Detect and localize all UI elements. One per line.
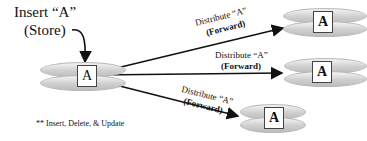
target-database-2: A (284, 58, 367, 88)
source-label-line1: Insert “A” (14, 4, 76, 21)
replication-diagram: Insert “A” (Store) A A Distribute “A” (F… (0, 0, 367, 141)
edge-2-label-line2: (Forward) (221, 61, 261, 71)
target-database-1: A (283, 8, 367, 38)
target-2-record-box: A (312, 61, 332, 83)
source-record-box: A (77, 65, 97, 87)
footnote: ** Insert, Delete, & Update (36, 119, 124, 128)
edge-2-label-line1: Distribute “A” (215, 50, 268, 60)
insert-arrow (72, 30, 85, 62)
target-1-record-box: A (313, 11, 333, 33)
source-database: A (40, 62, 126, 92)
target-database-3: A (240, 104, 306, 134)
target-3-record-box: A (264, 107, 284, 129)
source-label-line2: (Store) (24, 22, 66, 39)
